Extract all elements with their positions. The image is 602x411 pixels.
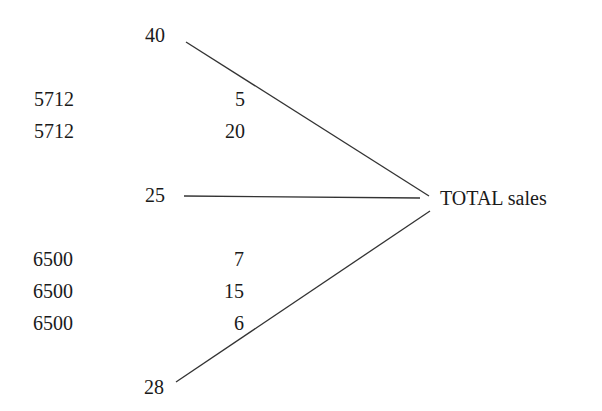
subtotal-40: 40 (145, 25, 165, 45)
total-sales-label: TOTAL sales (440, 188, 547, 208)
row-value: 7 (204, 249, 244, 269)
subtotal-25: 25 (145, 185, 165, 205)
row-key: 5712 (34, 121, 74, 141)
row-key: 5712 (34, 89, 74, 109)
row-key: 6500 (33, 249, 73, 269)
row-value: 5 (205, 89, 245, 109)
row-value: 15 (204, 281, 244, 301)
row-key: 6500 (33, 313, 73, 333)
row-value: 20 (205, 121, 245, 141)
subtotal-28: 28 (144, 377, 164, 397)
row-key: 6500 (33, 281, 73, 301)
connector-line-25 (184, 196, 420, 198)
connector-line-40 (186, 42, 429, 196)
row-value: 6 (204, 313, 244, 333)
